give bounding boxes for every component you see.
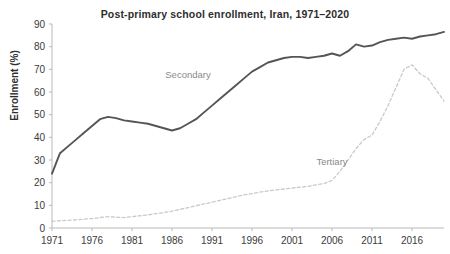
x-tick-label: 1991 <box>201 235 224 246</box>
data-series-group <box>52 32 444 221</box>
chart-title: Post-primary school enrollment, Iran, 19… <box>0 8 450 20</box>
y-tick-label: 30 <box>34 155 46 166</box>
chart-figure: Post-primary school enrollment, Iran, 19… <box>0 0 450 254</box>
y-tick-label: 80 <box>34 41 46 52</box>
y-axis-ticks: 0102030405060708090 <box>34 19 52 234</box>
series-line-secondary <box>52 32 444 174</box>
x-tick-label: 2016 <box>401 235 424 246</box>
y-tick-label: 70 <box>34 64 46 75</box>
y-tick-label: 60 <box>34 87 46 98</box>
x-tick-label: 1986 <box>161 235 184 246</box>
x-tick-label: 1981 <box>121 235 144 246</box>
series-label-secondary: Secondary <box>165 69 211 80</box>
x-tick-label: 1971 <box>41 235 64 246</box>
y-axis-label: Enrollment (%) <box>9 26 20 146</box>
x-tick-label: 1996 <box>241 235 264 246</box>
chart-plot-area: 0102030405060708090 19711976198119861991… <box>0 0 450 254</box>
y-tick-label: 50 <box>34 109 46 120</box>
series-label-tertiary: Tertiary <box>316 156 347 167</box>
y-tick-label: 10 <box>34 200 46 211</box>
x-tick-label: 2001 <box>281 235 304 246</box>
y-tick-label: 20 <box>34 177 46 188</box>
y-tick-label: 0 <box>39 223 45 234</box>
y-tick-label: 40 <box>34 132 46 143</box>
x-tick-label: 2006 <box>321 235 344 246</box>
x-tick-label: 1976 <box>81 235 104 246</box>
x-axis-ticks: 1971197619811986199119962001200620112016 <box>41 228 424 246</box>
x-tick-label: 2011 <box>361 235 383 246</box>
series-labels: SecondaryTertiary <box>165 69 348 166</box>
y-tick-label: 90 <box>34 19 46 30</box>
series-line-tertiary <box>52 65 444 221</box>
